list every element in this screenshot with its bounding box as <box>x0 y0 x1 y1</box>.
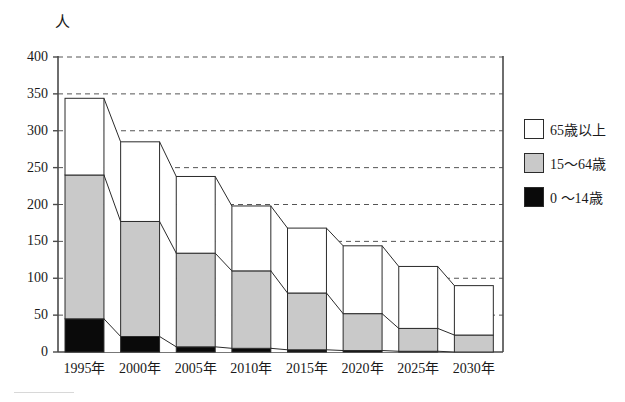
x-tick-1995年: 1995年 <box>63 362 105 376</box>
bar-3-seg-15-64 <box>176 253 215 347</box>
bar-2-seg-15-64 <box>121 221 160 336</box>
legend-label-15-64: 15〜64歳 <box>550 153 606 173</box>
bar-6-seg-65-plus <box>343 246 382 314</box>
legend-label-0-14: 0 〜14歳 <box>550 187 603 207</box>
x-tick-2025年: 2025年 <box>397 362 439 376</box>
chart-legend: 65歳以上 15〜64歳 0 〜14歳 <box>524 112 606 214</box>
legend-swatch-black-icon <box>524 187 544 207</box>
bar-3-seg-65-plus <box>176 176 215 253</box>
y-tick-50: 50 <box>8 308 48 322</box>
x-tick-2000年: 2000年 <box>119 362 161 376</box>
y-tick-300: 300 <box>8 124 48 138</box>
y-tick-100: 100 <box>8 271 48 285</box>
y-tick-0: 0 <box>8 345 48 359</box>
bar-1-seg-65-plus <box>65 98 104 175</box>
x-tick-2010年: 2010年 <box>230 362 272 376</box>
y-tick-150: 150 <box>8 234 48 248</box>
bar-8-seg-15-64 <box>454 335 493 352</box>
legend-label-65-plus: 65歳以上 <box>550 119 606 139</box>
legend-item-65-plus: 65歳以上 <box>524 112 606 146</box>
y-tick-350: 350 <box>8 87 48 101</box>
y-tick-400: 400 <box>8 50 48 64</box>
bar-6-seg-15-64 <box>343 314 382 351</box>
x-tick-2030年: 2030年 <box>453 362 495 376</box>
bar-5-seg-15-64 <box>288 293 327 350</box>
bar-1-seg-15-64 <box>65 175 104 319</box>
bar-8-seg-65-plus <box>454 286 493 335</box>
bar-4-seg-0-14 <box>232 348 271 352</box>
legend-item-0-14: 0 〜14歳 <box>524 180 606 214</box>
bar-2-seg-0-14 <box>121 337 160 352</box>
bar-5-seg-65-plus <box>288 228 327 293</box>
bar-3-seg-0-14 <box>176 347 215 352</box>
page-bottom-rule <box>14 392 74 393</box>
legend-swatch-white-icon <box>524 119 544 139</box>
legend-swatch-gray-icon <box>524 153 544 173</box>
bar-4-seg-65-plus <box>232 206 271 271</box>
bar-7-seg-15-64 <box>399 328 438 351</box>
y-tick-250: 250 <box>8 161 48 175</box>
bar-4-seg-15-64 <box>232 271 271 348</box>
bar-7-seg-65-plus <box>399 266 438 328</box>
chart-container: 人 050100150200250300350400 1995年2000年200… <box>0 0 625 402</box>
bar-1-seg-0-14 <box>65 319 104 352</box>
x-tick-2005年: 2005年 <box>175 362 217 376</box>
x-tick-2020年: 2020年 <box>342 362 384 376</box>
bar-2-seg-65-plus <box>121 142 160 222</box>
x-tick-2015年: 2015年 <box>286 362 328 376</box>
y-tick-200: 200 <box>8 198 48 212</box>
legend-item-15-64: 15〜64歳 <box>524 146 606 180</box>
